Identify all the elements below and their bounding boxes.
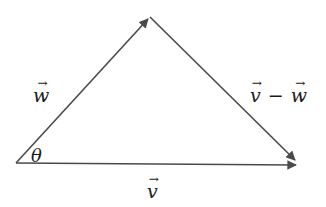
minus-sign: − xyxy=(268,84,284,106)
label-theta: θ xyxy=(31,147,42,165)
vector-arrow-icon: → xyxy=(38,77,48,89)
vector-arrow-icon: → xyxy=(149,173,159,185)
vector-arrow-icon: → xyxy=(252,77,262,89)
label-v-minus-w: → v − → w xyxy=(250,86,307,105)
label-w: → w xyxy=(33,86,49,105)
vector-arrow-icon: → xyxy=(295,77,305,89)
vector-v-line xyxy=(16,163,296,165)
label-v: → v xyxy=(147,182,158,201)
